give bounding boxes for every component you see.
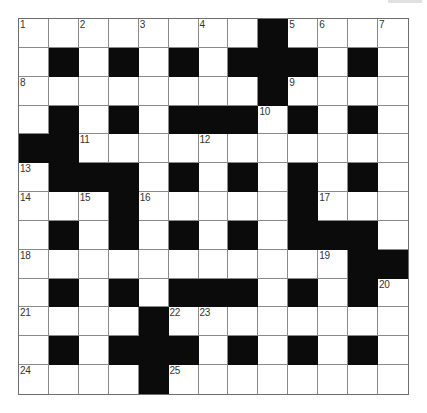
answer-cell[interactable] (318, 279, 348, 308)
answer-cell[interactable] (258, 250, 288, 279)
answer-cell[interactable] (79, 48, 109, 77)
answer-cell[interactable] (199, 163, 229, 192)
answer-cell[interactable] (318, 106, 348, 135)
answer-cell[interactable] (109, 250, 139, 279)
answer-cell[interactable]: 7 (378, 19, 408, 48)
answer-cell[interactable] (109, 19, 139, 48)
answer-cell[interactable]: 6 (318, 19, 348, 48)
answer-cell[interactable] (49, 77, 79, 106)
answer-cell[interactable] (109, 77, 139, 106)
answer-cell[interactable] (258, 221, 288, 250)
answer-cell[interactable] (378, 48, 408, 77)
answer-cell[interactable] (139, 77, 169, 106)
answer-cell[interactable] (318, 365, 348, 394)
answer-cell[interactable] (49, 307, 79, 336)
answer-cell[interactable] (19, 279, 49, 308)
answer-cell[interactable] (139, 48, 169, 77)
answer-cell[interactable] (228, 250, 258, 279)
answer-cell[interactable] (258, 134, 288, 163)
answer-cell[interactable] (348, 77, 378, 106)
answer-cell[interactable] (49, 365, 79, 394)
answer-cell[interactable]: 21 (19, 307, 49, 336)
answer-cell[interactable]: 12 (199, 134, 229, 163)
answer-cell[interactable]: 19 (318, 250, 348, 279)
answer-cell[interactable]: 9 (288, 77, 318, 106)
answer-cell[interactable] (19, 221, 49, 250)
answer-cell[interactable] (258, 163, 288, 192)
answer-cell[interactable] (19, 48, 49, 77)
answer-cell[interactable] (378, 163, 408, 192)
answer-cell[interactable]: 16 (139, 192, 169, 221)
answer-cell[interactable] (258, 192, 288, 221)
answer-cell[interactable] (139, 250, 169, 279)
answer-cell[interactable] (169, 77, 199, 106)
answer-cell[interactable] (318, 163, 348, 192)
answer-cell[interactable]: 23 (199, 307, 229, 336)
answer-cell[interactable]: 4 (199, 19, 229, 48)
answer-cell[interactable] (318, 336, 348, 365)
answer-cell[interactable]: 22 (169, 307, 199, 336)
answer-cell[interactable]: 10 (258, 106, 288, 135)
answer-cell[interactable]: 15 (79, 192, 109, 221)
answer-cell[interactable] (169, 134, 199, 163)
answer-cell[interactable] (79, 221, 109, 250)
answer-cell[interactable] (19, 106, 49, 135)
answer-cell[interactable] (49, 250, 79, 279)
answer-cell[interactable] (199, 77, 229, 106)
answer-cell[interactable] (79, 106, 109, 135)
answer-cell[interactable] (49, 192, 79, 221)
answer-cell[interactable] (139, 221, 169, 250)
answer-cell[interactable] (199, 365, 229, 394)
answer-cell[interactable] (228, 365, 258, 394)
answer-cell[interactable] (228, 307, 258, 336)
answer-cell[interactable]: 24 (19, 365, 49, 394)
answer-cell[interactable] (19, 336, 49, 365)
answer-cell[interactable] (348, 192, 378, 221)
answer-cell[interactable]: 17 (318, 192, 348, 221)
answer-cell[interactable] (199, 250, 229, 279)
answer-cell[interactable] (318, 77, 348, 106)
answer-cell[interactable]: 8 (19, 77, 49, 106)
answer-cell[interactable] (258, 365, 288, 394)
answer-cell[interactable] (199, 336, 229, 365)
answer-cell[interactable]: 18 (19, 250, 49, 279)
answer-cell[interactable] (258, 307, 288, 336)
answer-cell[interactable] (348, 365, 378, 394)
answer-cell[interactable] (199, 192, 229, 221)
answer-cell[interactable] (169, 19, 199, 48)
answer-cell[interactable] (318, 134, 348, 163)
answer-cell[interactable] (228, 19, 258, 48)
answer-cell[interactable] (199, 48, 229, 77)
answer-cell[interactable] (139, 106, 169, 135)
answer-cell[interactable] (348, 19, 378, 48)
answer-cell[interactable] (79, 307, 109, 336)
answer-cell[interactable] (348, 307, 378, 336)
answer-cell[interactable] (378, 336, 408, 365)
answer-cell[interactable] (258, 279, 288, 308)
answer-cell[interactable] (288, 250, 318, 279)
answer-cell[interactable] (79, 77, 109, 106)
answer-cell[interactable] (228, 134, 258, 163)
answer-cell[interactable] (49, 19, 79, 48)
answer-cell[interactable]: 25 (169, 365, 199, 394)
answer-cell[interactable] (199, 221, 229, 250)
answer-cell[interactable] (288, 365, 318, 394)
answer-cell[interactable] (139, 279, 169, 308)
answer-cell[interactable]: 13 (19, 163, 49, 192)
answer-cell[interactable] (169, 192, 199, 221)
answer-cell[interactable]: 3 (139, 19, 169, 48)
answer-cell[interactable] (378, 221, 408, 250)
answer-cell[interactable] (109, 134, 139, 163)
answer-cell[interactable] (109, 365, 139, 394)
answer-cell[interactable] (378, 106, 408, 135)
answer-cell[interactable] (139, 163, 169, 192)
answer-cell[interactable] (109, 307, 139, 336)
answer-cell[interactable]: 2 (79, 19, 109, 48)
answer-cell[interactable] (378, 77, 408, 106)
answer-cell[interactable]: 1 (19, 19, 49, 48)
answer-cell[interactable] (139, 134, 169, 163)
answer-cell[interactable] (79, 365, 109, 394)
answer-cell[interactable] (318, 307, 348, 336)
answer-cell[interactable] (228, 192, 258, 221)
answer-cell[interactable] (378, 192, 408, 221)
